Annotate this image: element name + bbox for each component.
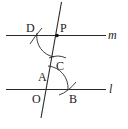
label-l: l — [109, 82, 113, 96]
arc-centered-p — [37, 33, 54, 57]
point-p-dot — [55, 34, 59, 38]
label-c: C — [56, 59, 64, 73]
label-m: m — [108, 28, 117, 42]
label-p: P — [60, 21, 67, 35]
label-d: D — [26, 21, 35, 35]
label-o: O — [32, 92, 41, 106]
label-b: B — [69, 92, 77, 106]
construction-diagram: D P m C A l O B — [0, 0, 128, 129]
label-a: A — [38, 70, 47, 84]
